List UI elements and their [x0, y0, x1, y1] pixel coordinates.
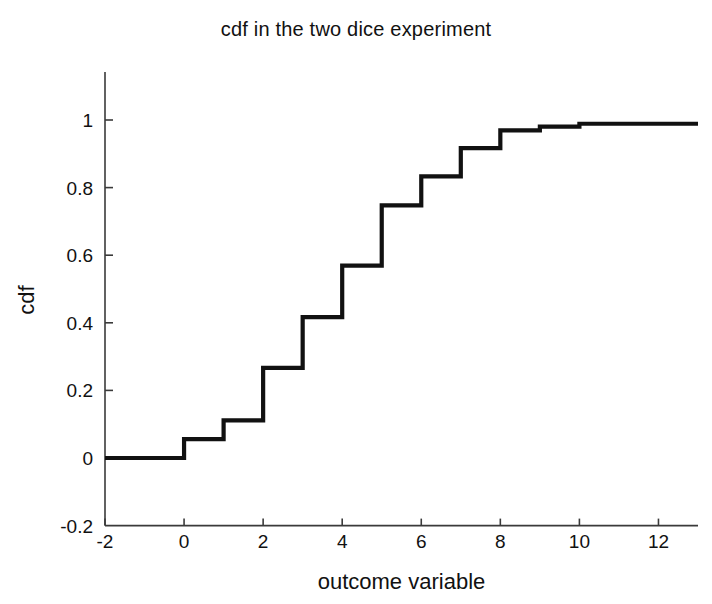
y-tick-label: -0.2: [60, 516, 93, 537]
x-tick-label: 8: [495, 531, 506, 552]
y-tick-label: 0.2: [67, 380, 93, 401]
x-axis-title: outcome variable: [318, 569, 486, 594]
x-tick-label: 0: [179, 531, 190, 552]
y-axis-title: cdf: [14, 284, 39, 314]
x-tick-label: 10: [569, 531, 590, 552]
y-tick-label: 0: [82, 448, 93, 469]
y-tick-label: 0.6: [67, 245, 93, 266]
x-tick-label: 12: [648, 531, 669, 552]
y-tick-label: 0.4: [67, 313, 94, 334]
x-tick-label: -2: [97, 531, 114, 552]
figure-canvas: cdf in the two dice experiment -20246810…: [0, 0, 712, 604]
ticks-group: [105, 120, 658, 526]
axes-group: [105, 72, 698, 526]
plot-area: -2024681012-0.200.20.40.60.81 outcome va…: [0, 0, 712, 604]
x-tick-label: 2: [258, 531, 269, 552]
y-tick-label: 1: [82, 110, 93, 131]
y-tick-label: 0.8: [67, 178, 93, 199]
tick-labels-group: -2024681012-0.200.20.40.60.81: [60, 110, 669, 552]
data-series-group: [105, 124, 698, 458]
x-tick-label: 6: [416, 531, 427, 552]
x-tick-label: 4: [337, 531, 348, 552]
cdf-step-curve: [105, 124, 698, 458]
